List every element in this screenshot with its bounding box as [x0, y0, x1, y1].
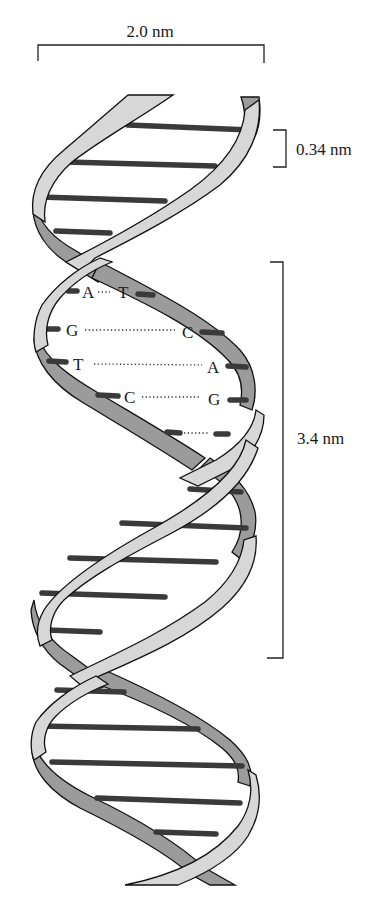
- width-bracket: [38, 45, 264, 63]
- base-pair-bar: [97, 798, 240, 803]
- dna-double-helix-diagram: 2.0 nm 0.34 nm 3.4 nm: [0, 0, 381, 904]
- base-stub-left: [167, 432, 180, 433]
- base-stub-right: [202, 332, 222, 333]
- hydrogen-bonds: [94, 364, 202, 365]
- base-pair-bar: [128, 125, 250, 130]
- dark-strand-segment: [34, 330, 205, 470]
- dark-strand-segment: [92, 262, 255, 410]
- base-spacing-bracket: [273, 130, 286, 167]
- base-pair-bar: [40, 197, 165, 201]
- base-label-left: A: [82, 283, 95, 302]
- base-pair-bar: [66, 162, 215, 166]
- base-label-left: T: [73, 355, 84, 374]
- base-stub-right: [228, 366, 246, 367]
- base-pair-partial: [167, 432, 228, 434]
- width-dimension: 2.0 nm: [38, 22, 264, 63]
- helical-turn-dimension: 3.4 nm: [267, 262, 344, 658]
- base-label-left: C: [124, 388, 135, 407]
- helical-turn-label: 3.4 nm: [297, 429, 344, 448]
- base-label-right: T: [118, 283, 129, 302]
- base-label-left: G: [66, 321, 78, 340]
- base-label-right: A: [207, 358, 220, 377]
- base-pair-bar: [156, 832, 216, 834]
- base-pair-bar: [70, 558, 216, 562]
- base-pair-bar: [38, 726, 198, 729]
- base-pair-bar: [52, 762, 242, 766]
- base-stub-left: [49, 361, 66, 362]
- base-spacing-dimension: 0.34 nm: [273, 130, 352, 167]
- base-label-right: C: [182, 323, 193, 342]
- helical-turn-bracket: [267, 262, 283, 658]
- base-stub-left: [98, 395, 118, 396]
- base-label-right: G: [208, 390, 220, 409]
- base-pair-t-a: T A: [49, 355, 246, 377]
- base-spacing-label: 0.34 nm: [296, 140, 352, 159]
- labeled-base-pairs: A T G C T A C G: [42, 283, 246, 434]
- base-pair-bar: [47, 630, 100, 632]
- base-stub-right: [138, 294, 153, 295]
- width-label: 2.0 nm: [126, 22, 173, 41]
- base-pair-bar: [56, 231, 110, 233]
